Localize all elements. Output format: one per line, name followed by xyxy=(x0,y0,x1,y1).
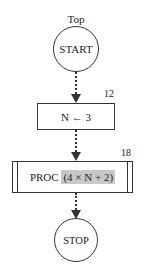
proc-argument: (4 × N + 2) xyxy=(61,170,115,184)
annotation-18: 18 xyxy=(121,147,131,158)
arrow-start-to-assign xyxy=(71,72,81,103)
stop-label: STOP xyxy=(63,235,89,246)
arrow-proc-to-stop xyxy=(71,193,81,219)
start-node: START xyxy=(53,26,99,72)
proc-label: PROC xyxy=(30,171,59,183)
arrowhead-icon xyxy=(71,94,81,103)
arrowhead-icon xyxy=(71,152,81,161)
start-label: START xyxy=(59,43,92,55)
assign-node: N ← 3 xyxy=(37,103,115,130)
diagram-title: Top xyxy=(0,13,143,25)
proc-node: PROC (4 × N + 2) xyxy=(12,161,133,193)
arrow-assign-to-proc xyxy=(71,130,81,161)
assign-label: N ← 3 xyxy=(61,111,91,123)
stop-node: STOP xyxy=(54,218,98,262)
annotation-12: 12 xyxy=(104,88,114,99)
